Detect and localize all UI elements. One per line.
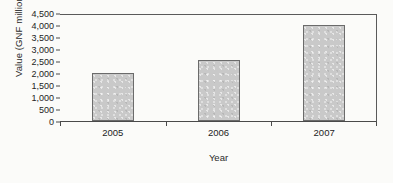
x-axis-title: Year: [60, 152, 377, 163]
bar-2005: [92, 73, 134, 121]
plot-area: [60, 14, 377, 122]
y-axis-tick-label: 1,000: [20, 94, 54, 103]
y-axis-tick-labels: 05001,0001,5002,0002,5003,0003,5004,0004…: [20, 14, 54, 122]
y-axis-tick-mark: [56, 86, 60, 87]
y-axis-tick-mark: [56, 98, 60, 99]
x-axis-tick-mark: [376, 122, 377, 126]
y-axis-tick-label: 2,500: [20, 58, 54, 67]
y-axis-tick-label: 4,500: [20, 10, 54, 19]
x-axis-tick-mark: [271, 122, 272, 126]
y-axis-tick-label: 0: [20, 118, 54, 127]
y-axis-tick-mark: [56, 14, 60, 15]
y-axis-tick-mark: [56, 26, 60, 27]
y-axis-tick-mark: [56, 38, 60, 39]
bars-layer: [60, 15, 376, 121]
y-axis-tick-label: 500: [20, 106, 54, 115]
x-axis-tick-label: 2006: [208, 127, 229, 138]
y-axis-tick-mark: [56, 50, 60, 51]
x-axis-tick-mark: [60, 122, 61, 126]
x-axis-tick-label: 2005: [102, 127, 123, 138]
y-axis-tick-mark: [56, 122, 60, 123]
y-axis-tick-mark: [56, 74, 60, 75]
y-axis-tick-label: 1,500: [20, 82, 54, 91]
x-axis-tick-mark: [166, 122, 167, 126]
bar-2006: [198, 60, 240, 121]
y-axis-tick-label: 2,000: [20, 70, 54, 79]
bar-2007: [303, 25, 345, 121]
y-axis-tick-mark: [56, 110, 60, 111]
y-axis-tick-mark: [56, 62, 60, 63]
y-axis-tick-label: 3,500: [20, 34, 54, 43]
y-axis-tick-label: 3,000: [20, 46, 54, 55]
x-axis-tick-labels: 200520062007: [60, 127, 377, 141]
x-axis-tick-label: 2007: [314, 127, 335, 138]
y-axis-tick-label: 4,000: [20, 22, 54, 31]
bar-chart-figure: Value (GNF million) 05001,0001,5002,0002…: [0, 0, 393, 183]
